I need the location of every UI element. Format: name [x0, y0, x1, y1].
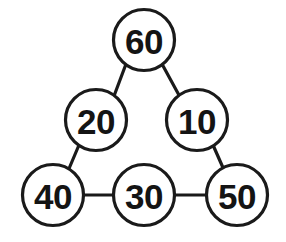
node-60[interactable]: 60	[114, 10, 175, 71]
node-60-label: 60	[125, 22, 163, 61]
node-10-label: 10	[178, 102, 216, 141]
node-40-label: 40	[34, 177, 72, 216]
edge-20-40	[68, 145, 79, 171]
edge-60-10	[162, 64, 180, 97]
node-10[interactable]: 10	[167, 90, 228, 151]
node-30[interactable]: 30	[114, 165, 175, 226]
node-20[interactable]: 20	[66, 90, 127, 151]
edge-60-20	[114, 64, 126, 96]
node-40[interactable]: 40	[23, 165, 84, 226]
graph-svg: 602010403050	[0, 0, 286, 242]
node-20-label: 20	[77, 102, 115, 141]
node-50[interactable]: 50	[207, 165, 268, 226]
node-30-label: 30	[125, 177, 163, 216]
edge-10-50	[213, 145, 224, 170]
node-50-label: 50	[218, 177, 256, 216]
nodes-layer: 602010403050	[23, 10, 268, 226]
diagram-canvas: 602010403050	[0, 0, 286, 242]
